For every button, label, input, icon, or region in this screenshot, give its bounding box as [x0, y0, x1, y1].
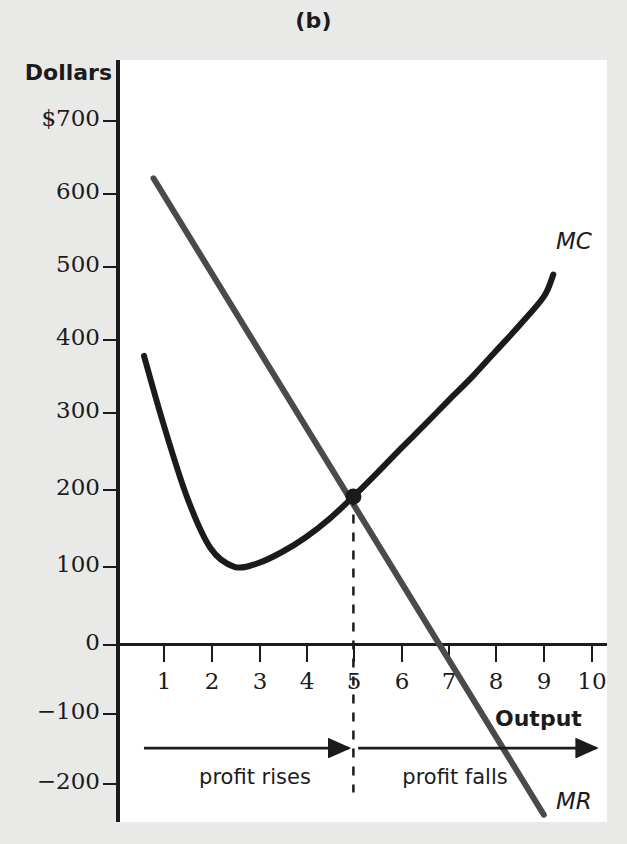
curves-overlay	[0, 0, 627, 844]
equilibrium-point-dot	[345, 489, 361, 505]
mc-curve	[144, 275, 553, 568]
mr-line-label: MR	[556, 788, 592, 814]
profit-falls-label: profit falls	[360, 765, 550, 789]
profit-rises-label: profit rises	[160, 765, 350, 789]
figure-canvas: (b) Dollars Output $700 600 500 400 300 …	[0, 0, 627, 844]
mc-curve-label: MC	[556, 228, 592, 254]
